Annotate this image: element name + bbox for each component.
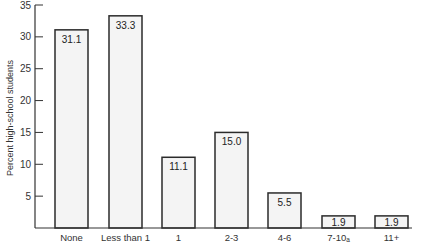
y-tick-label: 35 — [20, 0, 32, 11]
bar-value-label: 15.0 — [222, 136, 242, 147]
bar-value-label: 1.9 — [385, 217, 399, 228]
x-category-label: 2-3 — [225, 232, 239, 243]
bar-value-label: 1.9 — [332, 217, 346, 228]
bar-value-label: 31.1 — [62, 34, 82, 45]
bar-7-10: 1.9 — [322, 216, 355, 228]
bar-less-than-1: 33.3 — [109, 16, 142, 228]
x-category-label: 7-10ₐ — [327, 232, 350, 243]
y-tick-label: 10 — [20, 159, 32, 170]
y-axis-title: Percent high-school students — [5, 59, 15, 176]
bar-1: 11.1 — [162, 157, 195, 228]
bar-rect — [109, 16, 142, 228]
y-tick-label: 25 — [20, 63, 32, 74]
bar-2-3: 15.0 — [215, 132, 248, 228]
x-category-label: 1 — [176, 232, 181, 243]
bar-4-6: 5.5 — [268, 193, 301, 228]
x-category-label: 11+ — [384, 232, 400, 243]
x-category-label: None — [60, 232, 83, 243]
y-tick-label: 20 — [20, 95, 32, 106]
y-tick-label: 30 — [20, 31, 32, 42]
y-tick-label: 5 — [25, 191, 31, 202]
bar-chart: 5101520253035 31.133.311.115.05.51.91.9 … — [0, 0, 424, 250]
bars: 31.133.311.115.05.51.91.9 — [55, 16, 408, 228]
y-tick-label: 15 — [20, 127, 32, 138]
bar-value-label: 33.3 — [116, 20, 136, 31]
bar-rect — [55, 30, 88, 228]
bar-11-: 1.9 — [375, 216, 408, 228]
x-category-label: Less than 1 — [101, 232, 150, 243]
x-category-label: 4-6 — [278, 232, 292, 243]
y-axis: 5101520253035 — [20, 0, 43, 228]
bar-none: 31.1 — [55, 30, 88, 228]
bar-value-label: 11.1 — [169, 161, 188, 172]
bar-value-label: 5.5 — [278, 197, 292, 208]
x-axis: NoneLess than 112-34-67-10ₐ11+ — [35, 228, 412, 243]
